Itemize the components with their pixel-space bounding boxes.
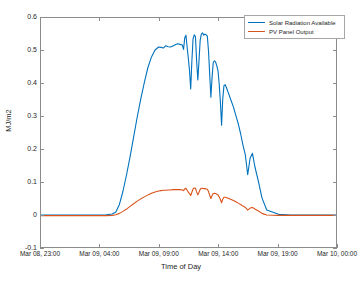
x-tick-mark (40, 17, 41, 21)
y-tick-label: 0.2 (27, 145, 37, 153)
x-tick-label: Mar 09, 14:00 (198, 250, 238, 258)
x-tick-label: Mar 09, 19:00 (258, 250, 298, 258)
x-tick-mark (99, 17, 100, 21)
y-axis-title: MJ/m2 (4, 91, 13, 151)
y-tick-mark (333, 182, 337, 183)
figure-canvas: 0.60.50.40.30.20.10-0.1Mar 08, 23:00Mar … (0, 0, 362, 286)
y-tick-mark (333, 215, 337, 216)
y-tick-mark (333, 83, 337, 84)
legend-label-pv-output: PV Panel Output (269, 28, 314, 36)
y-tick-label: 0.3 (27, 112, 37, 120)
y-tick-mark (40, 50, 44, 51)
legend-swatch-solar-radiation (248, 22, 265, 23)
x-tick-label: Mar 09, 04:00 (79, 250, 119, 258)
y-tick-mark (40, 215, 44, 216)
legend-label-solar-radiation: Solar Radiation Available (269, 19, 336, 27)
x-tick-mark (159, 244, 160, 248)
x-tick-mark (40, 244, 41, 248)
plot-area (40, 17, 337, 248)
x-tick-mark (337, 244, 338, 248)
x-tick-mark (159, 17, 160, 21)
y-tick-mark (333, 149, 337, 150)
y-tick-mark (40, 116, 44, 117)
y-tick-mark (40, 182, 44, 183)
series-line-pv-output (41, 188, 337, 216)
x-tick-label: Mar 10, 00:00 (317, 250, 357, 258)
legend-entry-pv-output: PV Panel Output (248, 27, 341, 36)
y-tick-label: 0 (33, 211, 37, 219)
y-tick-mark (333, 116, 337, 117)
y-tick-mark (40, 248, 44, 249)
y-tick-mark (333, 50, 337, 51)
y-tick-mark (40, 149, 44, 150)
y-tick-mark (333, 248, 337, 249)
y-tick-mark (40, 83, 44, 84)
y-tick-label: 0.1 (27, 178, 37, 186)
y-tick-label: 0.6 (27, 13, 37, 21)
series-svg (41, 18, 337, 248)
x-tick-mark (218, 244, 219, 248)
x-tick-mark (218, 17, 219, 21)
legend-entry-solar-radiation: Solar Radiation Available (248, 18, 341, 27)
x-tick-mark (278, 244, 279, 248)
x-tick-label: Mar 08, 23:00 (20, 250, 60, 258)
legend: Solar Radiation Available PV Panel Outpu… (244, 15, 345, 39)
y-tick-label: 0.5 (27, 46, 37, 54)
x-axis-title: Time of Day (0, 262, 362, 271)
y-tick-label: 0.4 (27, 79, 37, 87)
legend-swatch-pv-output (248, 31, 265, 32)
x-tick-label: Mar 09, 09:00 (139, 250, 179, 258)
x-tick-mark (99, 244, 100, 248)
series-line-solar-radiation (41, 33, 337, 215)
